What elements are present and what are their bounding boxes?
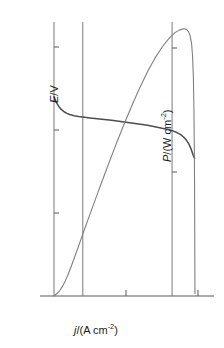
y-axis-right-rest: /(W cm — [161, 120, 173, 155]
x-axis-title: j/(A cm-2) — [74, 322, 118, 336]
vertical-axis-rules — [54, 22, 172, 296]
data-series-group — [54, 29, 195, 296]
y-axis-right-exponent: -2 — [159, 113, 168, 120]
chart-canvas — [0, 0, 224, 348]
x-axis-rest: /(A cm — [76, 324, 107, 336]
series-line-E — [54, 97, 195, 158]
y-axis-title-right: P/(W cm-2) — [159, 109, 173, 162]
y-axis-left-symbol: E — [48, 96, 60, 103]
series-line-P — [54, 29, 195, 296]
y-axis-right-symbol: P — [161, 155, 173, 162]
tick-marks — [54, 47, 198, 296]
y-axis-title-left: E/V — [48, 85, 60, 103]
y-axis-right-close: ) — [161, 109, 173, 113]
x-axis-close: ) — [114, 324, 118, 336]
chart-container: E/V P/(W cm-2) j/(A cm-2) — [0, 0, 224, 348]
y-axis-left-rest: /V — [48, 85, 60, 95]
